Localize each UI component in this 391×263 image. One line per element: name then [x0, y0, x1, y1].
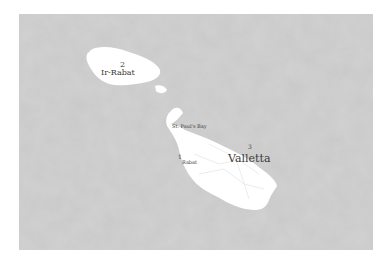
city-label-st-pauls-bay: St. Paul's Bay [172, 124, 207, 129]
city-label-ir-rabat: Ir-Rabat [101, 69, 135, 77]
map-canvas [19, 14, 373, 250]
city-label-rabat: Rabat [182, 160, 197, 165]
map-frame: 2 Ir-Rabat St. Paul's Bay 1 Rabat 3 Vall… [19, 14, 373, 250]
city-label-valletta: Valletta [228, 153, 270, 164]
sea-texture [19, 14, 373, 250]
map-marker-number: 3 [248, 144, 252, 150]
